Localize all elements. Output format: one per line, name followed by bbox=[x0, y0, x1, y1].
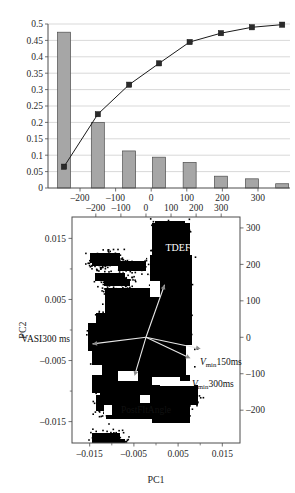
scatter-point bbox=[126, 279, 128, 281]
scatter-point bbox=[145, 415, 147, 417]
scatter-point bbox=[113, 432, 115, 434]
biplot-top-axis-ticks: –200–1000100200300 bbox=[85, 203, 228, 217]
scatter-point bbox=[102, 287, 104, 289]
scatter-point bbox=[100, 280, 102, 282]
scatter-point bbox=[144, 302, 146, 304]
scatter-point bbox=[127, 287, 129, 289]
scatter-point bbox=[155, 372, 157, 374]
scatter-point bbox=[178, 400, 180, 402]
scatter-point bbox=[154, 362, 156, 364]
scatter-point bbox=[189, 219, 191, 221]
scatter-point bbox=[111, 395, 113, 397]
scatter-point bbox=[107, 348, 109, 350]
scatter-point bbox=[118, 408, 120, 410]
scatter-point bbox=[92, 437, 94, 439]
biplot-right-tick-label: 200 bbox=[246, 260, 261, 270]
scatter-point bbox=[146, 260, 148, 262]
scatter-point bbox=[106, 431, 108, 433]
scatter-point bbox=[194, 349, 196, 351]
scatter-point bbox=[89, 260, 91, 262]
scatter-point bbox=[179, 232, 181, 234]
scatter-point bbox=[191, 334, 193, 336]
scatter-point bbox=[120, 254, 122, 256]
scree-bar bbox=[214, 176, 227, 188]
scatter-point bbox=[105, 393, 107, 395]
scatter-point bbox=[106, 274, 108, 276]
scatter-point bbox=[137, 321, 139, 323]
scatter-point bbox=[111, 398, 113, 400]
scatter-point bbox=[156, 348, 158, 350]
scatter-point bbox=[195, 256, 197, 258]
scatter-point bbox=[122, 317, 124, 319]
scree-y-tick-label: 0.1 bbox=[31, 151, 43, 161]
scatter-point bbox=[186, 332, 188, 334]
scatter-point bbox=[113, 429, 115, 431]
scatter-point bbox=[130, 279, 132, 281]
scatter-point bbox=[119, 383, 121, 385]
scatter-point bbox=[95, 411, 97, 413]
scatter-point bbox=[105, 327, 107, 329]
scatter-point bbox=[99, 416, 101, 418]
cloud-gap bbox=[140, 395, 150, 403]
scatter-point bbox=[129, 287, 131, 289]
scatter-point bbox=[104, 262, 106, 264]
scatter-point bbox=[113, 279, 115, 281]
biplot-bottom-tick-label: 0.015 bbox=[212, 449, 234, 459]
scatter-point bbox=[175, 398, 177, 400]
scatter-point bbox=[186, 320, 188, 322]
scatter-point bbox=[101, 398, 103, 400]
scatter-point bbox=[154, 343, 156, 345]
scatter-point bbox=[113, 413, 115, 415]
scatter-point bbox=[102, 359, 104, 361]
scatter-point bbox=[96, 407, 98, 409]
scatter-point bbox=[152, 368, 154, 370]
scatter-point bbox=[135, 272, 137, 274]
scatter-point bbox=[160, 354, 162, 356]
scatter-point bbox=[182, 303, 184, 305]
scatter-point bbox=[156, 225, 158, 227]
scatter-point bbox=[145, 359, 147, 361]
scatter-point bbox=[125, 390, 127, 392]
scatter-point bbox=[107, 381, 109, 383]
scatter-point bbox=[127, 275, 129, 277]
scatter-point bbox=[155, 231, 157, 233]
scatter-point bbox=[98, 359, 100, 361]
scatter-point bbox=[116, 393, 118, 395]
scatter-point bbox=[157, 386, 159, 388]
scatter-point bbox=[172, 226, 174, 228]
scatter-point bbox=[124, 440, 126, 442]
scatter-point bbox=[108, 281, 110, 283]
scatter-point bbox=[129, 288, 131, 290]
loading-vector-label: VASI300 ms bbox=[21, 334, 70, 344]
scatter-point bbox=[108, 423, 110, 425]
cumulative-marker bbox=[187, 39, 192, 44]
scatter-point bbox=[112, 329, 114, 331]
pca-biplot: 0.0150.005–0.005–0.015 3002001000–100–20… bbox=[0, 195, 295, 493]
scatter-point bbox=[135, 309, 137, 311]
scatter-point bbox=[159, 265, 161, 267]
scatter-point bbox=[122, 262, 124, 264]
scatter-point bbox=[121, 282, 123, 284]
scatter-point bbox=[191, 394, 193, 396]
scatter-point bbox=[148, 320, 150, 322]
scatter-point bbox=[136, 396, 138, 398]
scatter-point bbox=[92, 256, 94, 258]
scatter-point bbox=[108, 376, 110, 378]
scatter-point bbox=[152, 299, 154, 301]
scatter-point bbox=[101, 361, 103, 363]
scatter-point bbox=[118, 430, 120, 432]
scatter-point bbox=[102, 262, 104, 264]
scatter-point bbox=[98, 270, 100, 272]
scatter-point bbox=[128, 328, 130, 330]
scatter-point bbox=[167, 233, 169, 235]
scatter-point bbox=[97, 253, 99, 255]
scatter-point bbox=[175, 389, 177, 391]
scatter-point bbox=[130, 396, 132, 398]
scatter-point bbox=[159, 329, 161, 331]
scatter-point bbox=[101, 261, 103, 263]
scatter-point bbox=[188, 225, 190, 227]
scatter-point bbox=[144, 260, 146, 262]
scatter-point bbox=[122, 259, 124, 261]
scatter-point bbox=[138, 262, 140, 264]
scatter-point bbox=[98, 265, 100, 267]
